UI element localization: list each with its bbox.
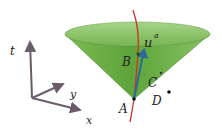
t-axis-arrow [30, 42, 32, 98]
x-axis-label: x [86, 114, 93, 127]
point-B [137, 53, 140, 56]
y-axis-arrow [32, 84, 63, 98]
label-C: C [148, 76, 157, 90]
axes-triad: t y x [10, 42, 93, 127]
point-D [167, 90, 171, 94]
label-D: D [151, 94, 162, 108]
point-A [132, 97, 136, 101]
y-axis-label: y [69, 88, 77, 101]
label-u-superscript: a [154, 31, 159, 40]
t-axis-label: t [10, 44, 15, 58]
label-u: u [144, 35, 152, 50]
label-A: A [118, 102, 128, 116]
light-cone-diagram: t y x u a B C D A [0, 0, 222, 134]
point-C [160, 72, 162, 74]
label-B: B [121, 55, 131, 69]
